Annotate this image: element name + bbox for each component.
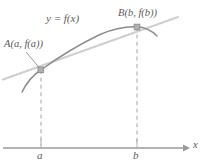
tick-label-a: a — [37, 150, 43, 161]
x-axis-arrowhead — [183, 145, 190, 152]
figure-container: y = f(x) A(a, f(a)) B(b, f(b)) a b x — [0, 0, 204, 163]
tick-label-b: b — [133, 150, 139, 161]
point-marker-b — [134, 24, 140, 30]
curve-label: y = f(x) — [46, 13, 79, 24]
point-b-label: B(b, f(b)) — [118, 8, 157, 19]
x-axis-label: x — [193, 140, 198, 151]
point-a-label: A(a, f(a)) — [4, 39, 43, 50]
point-marker-a — [38, 67, 44, 73]
figure-graphics — [0, 0, 204, 163]
leader-line-a — [26, 52, 40, 68]
